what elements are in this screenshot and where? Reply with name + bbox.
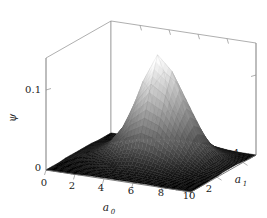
xtick-0 [45,170,47,175]
surface-plot-3d [0,0,267,218]
xtick-1 [74,174,76,179]
xtick-5 [190,192,192,197]
figure-canvas: 0.1 0 ψ 0 2 4 6 8 10 a 0 2 4 a 1 [0,0,267,218]
xtick-4 [161,188,163,193]
xtick-3 [132,183,134,188]
ytick-1 [243,162,248,165]
xtick-2 [103,179,105,184]
ytick-0 [217,177,222,180]
